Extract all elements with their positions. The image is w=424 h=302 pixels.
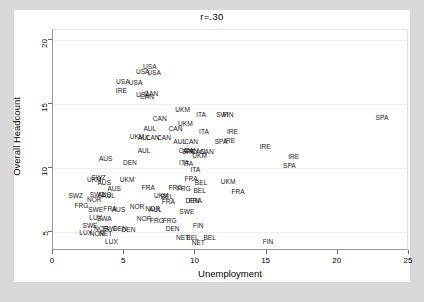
data-point-label: UKM <box>192 152 207 159</box>
x-tick-label: 15 <box>261 256 270 265</box>
data-point-label: SWE <box>88 205 103 212</box>
data-point-label: NOR <box>130 203 145 210</box>
data-point-label: FIN <box>193 222 204 229</box>
data-point-label: DEN <box>166 225 180 232</box>
data-point-label: IRE <box>224 136 235 143</box>
x-tick-mark <box>52 250 53 254</box>
data-point-label: SWE <box>179 208 194 215</box>
data-point-label: CAN <box>157 134 171 141</box>
data-point-label: IRE <box>116 87 127 94</box>
data-point-label: FRA <box>142 184 155 191</box>
data-point-label: UKM <box>175 106 190 113</box>
data-point-label: SWA <box>97 214 112 221</box>
data-point-label: SPA <box>283 162 296 169</box>
data-point-label: FRG <box>75 202 89 209</box>
x-tick-mark <box>194 250 195 254</box>
data-point-label: NET <box>192 239 205 246</box>
data-point-label: DEN <box>123 158 137 165</box>
data-point-label: USA <box>116 78 130 85</box>
data-point-label: CAN <box>168 125 182 132</box>
data-point-label: FRA <box>189 196 202 203</box>
data-point-label: CAN <box>140 93 154 100</box>
data-point-label: ITA <box>196 111 206 118</box>
data-point-label: SPA <box>376 113 389 120</box>
data-point-label: FIN <box>263 237 274 244</box>
x-tick-mark <box>266 250 267 254</box>
plot-area: USAUSAUSAUSAUSAIREUSACANCANUKMITASWIFINS… <box>52 29 408 250</box>
data-point-label: UKM <box>221 177 236 184</box>
data-point-label: AUS <box>112 205 126 212</box>
data-point-label: IRE <box>227 127 238 134</box>
data-point-label: NET <box>99 230 112 237</box>
data-point-label: AUL <box>149 205 162 212</box>
data-point-label: AUL <box>102 191 115 198</box>
chart-title: r=.30 <box>0 11 424 22</box>
data-point-label: UKM <box>120 176 135 183</box>
data-point-label: CAN <box>153 115 167 122</box>
scatter-plot-figure: r=.30 Overall Headcount 5101520 USAUSAUS… <box>0 0 424 302</box>
data-point-label: BEL <box>203 233 215 240</box>
data-point-label: IRE <box>260 143 271 150</box>
data-point-label: FRG <box>163 217 177 224</box>
y-axis-label: Overall Headcount <box>11 77 22 197</box>
x-tick-mark <box>337 250 338 254</box>
gridline-y <box>53 40 407 41</box>
x-tick-label: 20 <box>332 256 341 265</box>
y-tick-label: 20 <box>41 39 50 48</box>
data-point-label: USA <box>129 79 143 86</box>
x-tick-label: 25 <box>404 256 413 265</box>
data-point-label: AUL <box>138 147 151 154</box>
x-axis-label: Unemployment <box>52 268 408 279</box>
data-point-label: ITA <box>191 166 201 173</box>
data-point-label: FRG <box>150 217 164 224</box>
data-point-label: IRE <box>288 153 299 160</box>
y-tick-label: 10 <box>41 167 50 176</box>
x-tick-mark <box>123 250 124 254</box>
data-point-label: NOR <box>87 195 102 202</box>
x-tick-mark <box>408 250 409 254</box>
data-point-label: USA <box>147 69 161 76</box>
data-point-label: AUL <box>143 125 156 132</box>
data-point-label: DEN <box>122 226 136 233</box>
data-point-label: FRG <box>177 185 191 192</box>
data-point-label: SWZ <box>68 191 83 198</box>
gridline-y <box>53 104 407 105</box>
data-point-label: BEL <box>193 186 205 193</box>
data-point-label: AUS <box>99 154 113 161</box>
data-point-label: FRA <box>232 187 245 194</box>
gridline-y <box>53 168 407 169</box>
x-tick-label: 10 <box>190 256 199 265</box>
data-point-label: CAN <box>184 138 198 145</box>
y-tick-label: 15 <box>41 103 50 112</box>
data-point-label: FIN <box>223 111 234 118</box>
data-point-label: BEL <box>195 179 207 186</box>
data-point-label: ITA <box>199 127 209 134</box>
data-point-label: FRA <box>162 198 175 205</box>
x-tick-label: 0 <box>50 256 54 265</box>
x-tick-label: 5 <box>121 256 125 265</box>
data-point-label: LUX <box>105 237 118 244</box>
